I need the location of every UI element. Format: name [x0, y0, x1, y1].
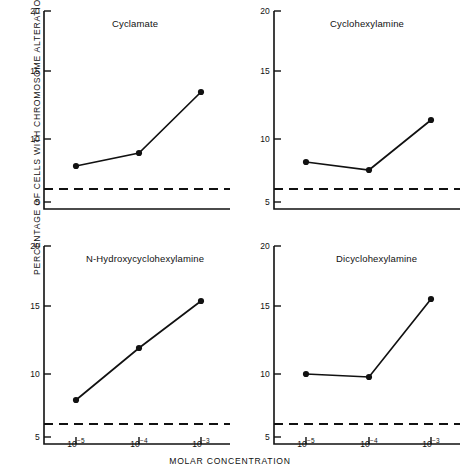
panel-plot [272, 243, 460, 445]
data-point [136, 150, 142, 156]
x-tick-label: 10−4 [349, 437, 389, 449]
panel-plot [42, 8, 230, 210]
x-tick-base: 10 [360, 439, 370, 449]
data-point [198, 298, 204, 304]
data-point [303, 371, 309, 377]
y-axis-ticks [44, 11, 51, 202]
y-tick-label: 10 [14, 134, 40, 144]
data-series [73, 89, 204, 169]
y-axis-ticks [274, 246, 281, 437]
data-series [73, 298, 204, 403]
y-tick-label: 20 [244, 241, 270, 251]
x-tick-base: 10 [67, 439, 77, 449]
x-tick-exponent: −3 [202, 437, 210, 444]
y-tick-label: 10 [244, 369, 270, 379]
y-axis-ticks [44, 246, 51, 437]
x-tick-exponent: −4 [140, 437, 148, 444]
x-tick-exponent: −5 [77, 437, 85, 444]
panel-plot [272, 8, 460, 210]
y-tick-label: 20 [14, 241, 40, 251]
figure-canvas: PERCENTAGE OF CELLS WITH CHROMOSOME ALTE… [0, 0, 460, 473]
y-tick-label: 15 [244, 66, 270, 76]
y-tick-label: 5 [244, 432, 270, 442]
data-point [366, 167, 372, 173]
panel-plot [42, 243, 230, 445]
x-tick-base: 10 [297, 439, 307, 449]
data-point [73, 397, 79, 403]
y-tick-label: 15 [14, 66, 40, 76]
x-tick-label: 10−4 [119, 437, 159, 449]
panel-title: Dicyclohexylamine [336, 253, 417, 264]
data-series [303, 296, 434, 380]
y-axis-ticks [274, 11, 281, 202]
panel-title: Cyclamate [112, 18, 158, 29]
panel-dicyclohexylamine: Dicyclohexylamine [272, 243, 460, 445]
x-tick-label: 10−5 [286, 437, 326, 449]
axis-spines [44, 11, 230, 209]
x-tick-label: 10−3 [181, 437, 221, 449]
axis-spines [274, 11, 460, 209]
data-point [198, 89, 204, 95]
x-tick-base: 10 [422, 439, 432, 449]
axis-spines [44, 246, 230, 444]
y-tick-label: 10 [244, 134, 270, 144]
x-tick-base: 10 [192, 439, 202, 449]
x-tick-exponent: −3 [432, 437, 440, 444]
y-tick-label: 15 [244, 301, 270, 311]
panel-title: N-Hydroxycyclohexylamine [86, 253, 204, 264]
y-tick-label: 20 [14, 6, 40, 16]
y-tick-label: 10 [14, 369, 40, 379]
data-point [366, 374, 372, 380]
x-tick-label: 10−5 [56, 437, 96, 449]
data-point [428, 296, 434, 302]
y-tick-label: 5 [14, 432, 40, 442]
panel-cyclohexylamine: Cyclohexylamine [272, 8, 460, 210]
x-axis-title: MOLAR CONCENTRATION [0, 456, 460, 466]
y-tick-label: 5 [14, 197, 40, 207]
x-tick-base: 10 [130, 439, 140, 449]
x-tick-exponent: −4 [370, 437, 378, 444]
data-point [428, 117, 434, 123]
data-series [303, 117, 434, 173]
axis-spines [274, 246, 460, 444]
x-tick-exponent: −5 [307, 437, 315, 444]
y-tick-label: 15 [14, 301, 40, 311]
panel-n-hydroxycyclohexylamine: N-Hydroxycyclohexylamine [42, 243, 230, 445]
y-tick-label: 20 [244, 6, 270, 16]
data-point [136, 345, 142, 351]
x-tick-label: 10−3 [411, 437, 451, 449]
y-tick-label: 5 [244, 197, 270, 207]
data-point [303, 159, 309, 165]
panel-title: Cyclohexylamine [330, 18, 404, 29]
data-point [73, 163, 79, 169]
panel-cyclamate: Cyclamate [42, 8, 230, 210]
